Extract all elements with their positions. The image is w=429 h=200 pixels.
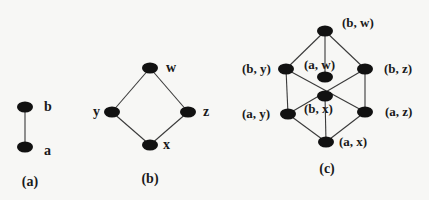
edge-by-ay [286,69,288,114]
node-label-ay: (a, y) [242,106,270,121]
node-label-bw: (b, w) [342,15,374,30]
node-bz [357,64,373,75]
lattice-figure: ba(a)wyzx(b)(b, w)(b, y)(a, w)(b, z)(b, … [0,0,429,200]
node-ax [318,137,334,148]
node-label-bz: (b, z) [384,61,412,76]
node-ay [280,109,296,120]
node-label-ax: (a, x) [339,134,367,149]
node-z [180,107,196,118]
node-bx [317,91,333,102]
diagram-caption: (a) [22,174,39,190]
node-label-x: x [163,137,170,152]
lattice-diagrams: ba(a)wyzx(b)(b, w)(b, y)(a, w)(b, z)(b, … [0,0,429,200]
node-bw [317,26,333,37]
node-label-z: z [203,104,209,119]
diagram-a: ba(a) [17,99,52,190]
edge-y-x [112,112,150,145]
node-az [357,107,373,118]
node-label-w: w [166,60,177,75]
node-label-by: (b, y) [242,61,271,76]
node-by [278,64,294,75]
node-label-b: b [44,99,52,114]
diagram-b: wyzx(b) [93,60,209,187]
edge-ay-ax [288,114,326,142]
node-x [142,140,158,151]
diagram-caption: (c) [319,161,335,177]
node-w [142,63,158,74]
diagram-caption: (b) [141,171,158,187]
edge-w-y [112,68,150,112]
diagram-c: (b, w)(b, y)(a, w)(b, z)(b, x)(a, y)(a, … [242,15,412,177]
node-label-az: (a, z) [385,104,412,119]
node-a [17,142,33,153]
node-y [104,107,120,118]
node-label-bx: (b, x) [304,101,333,116]
node-label-aw: (a, w) [304,57,335,72]
node-label-a: a [44,143,51,158]
node-label-y: y [93,104,100,119]
node-aw [317,72,333,83]
node-b [17,102,33,113]
